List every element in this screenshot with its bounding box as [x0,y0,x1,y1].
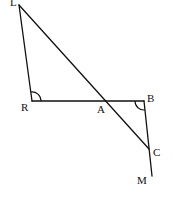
segment-BM [144,101,152,176]
geometry-diagram: L R A B C M [0,0,173,200]
label-A: A [97,103,105,115]
segment-LR [19,5,32,101]
label-B: B [147,92,154,104]
label-M: M [137,174,147,186]
segment-LC [19,5,149,149]
label-L: L [10,0,17,8]
label-C: C [153,146,160,158]
label-R: R [21,101,29,113]
